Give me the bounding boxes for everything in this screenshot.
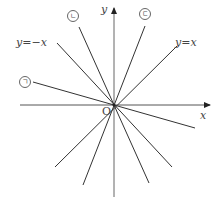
origin-label: O xyxy=(102,106,111,117)
label-giyeok: ㄱ xyxy=(19,76,31,88)
label-y-eq-x: y=x xyxy=(175,37,197,48)
origin-point xyxy=(113,104,116,107)
y-axis-label: y xyxy=(101,4,107,15)
x-axis-label: x xyxy=(200,110,206,121)
label-digeut: ㄷ xyxy=(139,8,151,20)
label-y-eq-neg-x: y=−x xyxy=(16,37,47,48)
coordinate-diagram xyxy=(0,0,223,206)
label-nieun: ㄴ xyxy=(67,10,79,22)
